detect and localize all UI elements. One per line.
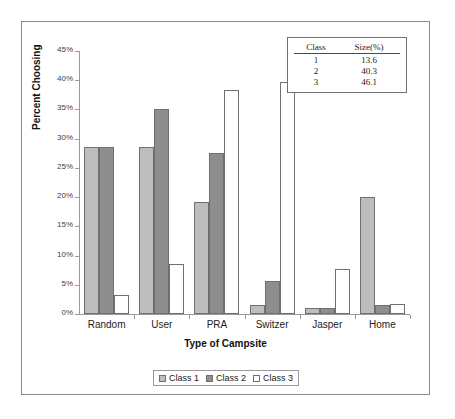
y-tick-mark <box>75 226 79 227</box>
bar <box>154 109 169 314</box>
legend-label: Class 1 <box>169 373 199 383</box>
bar-group <box>194 51 239 314</box>
legend-label: Class 3 <box>263 373 293 383</box>
table-cell-size: 13.6 <box>338 54 400 66</box>
legend-item: Class 3 <box>253 373 293 383</box>
table-header-class: Class <box>294 42 338 54</box>
legend-label: Class 2 <box>216 373 246 383</box>
y-tick-mark <box>75 80 79 81</box>
bar <box>114 295 129 314</box>
bar <box>360 197 375 314</box>
x-tick-label: Home <box>355 319 410 330</box>
class-size-table: Class Size(%) 113.6240.3346.1 <box>287 37 407 93</box>
y-axis-line <box>79 51 80 315</box>
bar <box>99 147 114 314</box>
table-cell-size: 40.3 <box>338 65 400 76</box>
bar <box>265 281 280 314</box>
bar <box>320 308 335 314</box>
table-cell-class: 2 <box>294 65 338 76</box>
legend-item: Class 2 <box>206 373 246 383</box>
bar <box>375 305 390 314</box>
table-cell-size: 46.1 <box>338 76 400 87</box>
class-size-table-grid: Class Size(%) 113.6240.3346.1 <box>294 42 400 87</box>
legend-swatch-icon <box>253 375 260 382</box>
chart-legend: Class 1Class 2Class 3 <box>153 370 299 386</box>
y-tick-label: 40% <box>57 74 73 83</box>
y-tick-label: 25% <box>57 162 73 171</box>
y-tick-label: 10% <box>57 250 73 259</box>
bar <box>305 308 320 314</box>
bar <box>224 90 239 314</box>
y-tick-label: 30% <box>57 133 73 142</box>
bar <box>209 153 224 314</box>
y-tick-mark <box>75 285 79 286</box>
table-row: 240.3 <box>294 65 400 76</box>
y-tick-label: 0% <box>61 308 73 317</box>
chart-figure: Percent Choosing 0%5%10%15%20%25%30%35%4… <box>21 21 430 395</box>
legend-swatch-icon <box>159 375 166 382</box>
y-tick-label: 5% <box>61 279 73 288</box>
table-cell-class: 1 <box>294 54 338 66</box>
bar <box>139 147 154 314</box>
y-tick-mark <box>75 168 79 169</box>
y-tick-label: 45% <box>57 45 73 54</box>
bar <box>390 304 405 314</box>
x-tick-label: Jasper <box>300 319 355 330</box>
bar <box>84 147 99 314</box>
table-header-row: Class Size(%) <box>294 42 400 54</box>
y-tick-mark <box>75 51 79 52</box>
y-tick-label: 35% <box>57 103 73 112</box>
x-axis-title: Type of Campsite <box>22 338 429 349</box>
bar-group <box>139 51 184 314</box>
y-tick-label: 20% <box>57 191 73 200</box>
y-axis-title: Percent Choosing <box>31 44 42 130</box>
table-header-size: Size(%) <box>338 42 400 54</box>
x-tick-label: Switzer <box>245 319 300 330</box>
y-tick-mark <box>75 256 79 257</box>
legend-swatch-icon <box>206 375 213 382</box>
x-tick-label: Random <box>79 319 134 330</box>
y-tick-label: 15% <box>57 220 73 229</box>
y-tick-mark <box>75 197 79 198</box>
bar <box>194 202 209 314</box>
bar <box>280 82 295 314</box>
x-tick-mark <box>410 315 411 319</box>
y-tick-mark <box>75 109 79 110</box>
table-row: 113.6 <box>294 54 400 66</box>
x-tick-label: PRA <box>189 319 244 330</box>
bar <box>335 269 350 314</box>
y-tick-mark <box>75 139 79 140</box>
x-tick-label: User <box>134 319 189 330</box>
legend-item: Class 1 <box>159 373 199 383</box>
y-tick-mark <box>75 314 79 315</box>
table-cell-class: 3 <box>294 76 338 87</box>
bar <box>169 264 184 314</box>
table-row: 346.1 <box>294 76 400 87</box>
bar-group <box>84 51 129 314</box>
bar <box>250 305 265 314</box>
